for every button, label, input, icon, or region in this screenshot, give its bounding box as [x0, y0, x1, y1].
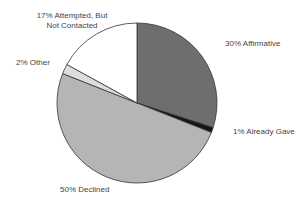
label-affirmative: 30% Affirmative — [225, 39, 280, 49]
label-attempted: 17% Attempted, But Not Contacted — [12, 11, 132, 31]
label-declined: 50% Declined — [60, 185, 109, 195]
label-other: 2% Other — [16, 58, 50, 68]
label-attempted-line2: Not Contacted — [12, 21, 132, 31]
label-attempted-line1: 17% Attempted, But — [12, 11, 132, 21]
label-already-gave: 1% Already Gave — [233, 127, 295, 137]
